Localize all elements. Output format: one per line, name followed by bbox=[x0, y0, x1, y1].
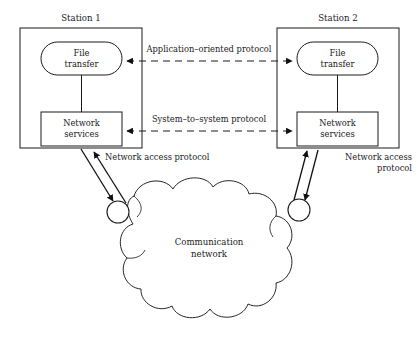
station-1-group: Station 1 File transfer Network services bbox=[20, 13, 142, 148]
station-2-access-arrow-up bbox=[294, 151, 307, 200]
diagram-canvas: Station 1 File transfer Network services… bbox=[0, 0, 420, 342]
station-2-access-arrow-down bbox=[305, 150, 318, 200]
station-1-access-node bbox=[107, 201, 129, 223]
station-2-file-transfer-label-line1: File bbox=[330, 48, 346, 58]
station-1-file-transfer-label-line2: transfer bbox=[65, 59, 99, 69]
system-protocol-label: System–to–system protocol bbox=[152, 114, 267, 124]
station-2-access-protocol-label-line2: protocol bbox=[377, 163, 412, 173]
station-2-group: Station 2 File transfer Network services bbox=[277, 13, 399, 148]
application-oriented-protocol-link: Application–oriented protocol bbox=[127, 44, 292, 61]
cloud-label-line1: Communication bbox=[175, 237, 244, 247]
system-to-system-protocol-link: System–to–system protocol bbox=[127, 114, 292, 131]
station-1-access-protocol-label: Network access protocol bbox=[105, 152, 210, 162]
station-2-access-node bbox=[288, 199, 310, 221]
communication-network-cloud: Communication network bbox=[120, 178, 292, 318]
station-1-title: Station 1 bbox=[61, 13, 101, 23]
station-2-network-services-label-line2: services bbox=[320, 129, 354, 139]
station-2-access-protocol-label-line1: Network access bbox=[345, 152, 412, 162]
application-protocol-label: Application–oriented protocol bbox=[146, 44, 272, 54]
station-1-network-services-label-line2: services bbox=[64, 129, 98, 139]
station-2-access-protocol-link: Network access protocol bbox=[294, 150, 412, 200]
cloud-outline bbox=[120, 178, 292, 318]
station-1-file-transfer-label-line1: File bbox=[74, 48, 90, 58]
station-2-file-transfer-label-line2: transfer bbox=[321, 59, 355, 69]
cloud-label-line2: network bbox=[191, 249, 228, 259]
station-2-title: Station 2 bbox=[318, 13, 358, 23]
station-1-network-services-label-line1: Network bbox=[63, 118, 101, 128]
station-2-network-services-label-line1: Network bbox=[319, 118, 357, 128]
network-architecture-diagram: Station 1 File transfer Network services… bbox=[0, 0, 420, 342]
